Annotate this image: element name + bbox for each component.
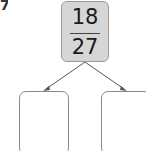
answer-box-right[interactable] <box>101 91 146 151</box>
denominator: 27 <box>62 36 108 58</box>
fraction-bar <box>70 33 100 34</box>
numerator: 18 <box>62 6 108 28</box>
answer-box-left[interactable] <box>19 91 69 151</box>
fraction-box: 18 27 <box>61 1 109 62</box>
